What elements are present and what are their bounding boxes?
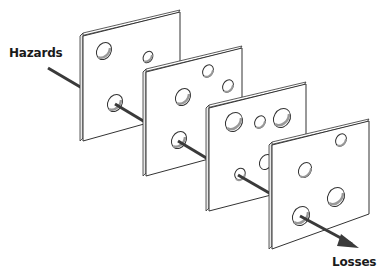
hazard-arrow-segment — [48, 68, 82, 88]
hazards-label: Hazards — [9, 46, 62, 60]
swiss-cheese-diagram — [0, 0, 385, 270]
losses-label: Losses — [332, 255, 376, 269]
